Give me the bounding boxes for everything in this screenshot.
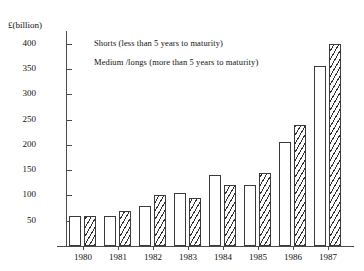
y-tick-label: 400 bbox=[10, 39, 36, 48]
bar-medium-longs bbox=[154, 195, 166, 246]
x-tick-label-year: 1984 bbox=[203, 252, 243, 262]
bar-medium-longs bbox=[259, 173, 271, 246]
bar-shorts bbox=[279, 142, 291, 246]
bar-group bbox=[68, 31, 100, 246]
x-tick-mark bbox=[258, 246, 259, 250]
y-axis-title: £(billion) bbox=[8, 20, 42, 30]
bar-medium-longs bbox=[329, 44, 341, 246]
x-tick-label-year: 1982 bbox=[133, 252, 173, 262]
bar-medium-longs bbox=[224, 185, 236, 246]
bar-medium-longs bbox=[84, 216, 96, 246]
bar-medium-longs bbox=[189, 198, 201, 246]
x-tick-mark bbox=[293, 246, 294, 250]
bar-shorts bbox=[139, 206, 151, 246]
x-tick-mark bbox=[188, 246, 189, 250]
bar-shorts bbox=[69, 216, 81, 246]
x-tick-label-year: 1981 bbox=[98, 252, 138, 262]
x-axis-line bbox=[57, 246, 354, 247]
x-tick-mark bbox=[328, 246, 329, 250]
y-tick-label: 150 bbox=[10, 165, 36, 174]
bar-medium-longs bbox=[294, 125, 306, 246]
x-tick-mark bbox=[118, 246, 119, 250]
bar-group bbox=[243, 31, 275, 246]
x-tick-label-year: 1983 bbox=[168, 252, 208, 262]
x-tick-mark bbox=[223, 246, 224, 250]
x-tick-mark bbox=[83, 246, 84, 250]
bar-shorts bbox=[209, 175, 221, 246]
y-tick-label: 50 bbox=[10, 216, 36, 225]
x-tick-mark bbox=[153, 246, 154, 250]
bar-shorts bbox=[174, 193, 186, 246]
bar-group bbox=[138, 31, 170, 246]
bar-shorts bbox=[104, 216, 116, 246]
y-tick-label: 100 bbox=[10, 190, 36, 199]
bar-group bbox=[103, 31, 135, 246]
x-tick-label-year: 1986 bbox=[273, 252, 313, 262]
bar-shorts bbox=[244, 185, 256, 246]
plot-area bbox=[67, 31, 354, 246]
bar-group bbox=[278, 31, 310, 246]
bar-group bbox=[313, 31, 345, 246]
y-tick-label: 200 bbox=[10, 140, 36, 149]
bar-medium-longs bbox=[119, 211, 131, 246]
bar-group bbox=[173, 31, 205, 246]
x-tick-label-year: 1985 bbox=[238, 252, 278, 262]
bar-chart: £(billion) 50100150200250300350400 Short… bbox=[0, 0, 364, 271]
bar-group bbox=[208, 31, 240, 246]
y-tick-label: 250 bbox=[10, 115, 36, 124]
bar-shorts bbox=[314, 66, 326, 246]
x-tick-label-year: 1980 bbox=[63, 252, 103, 262]
x-tick-label-year: 1987 bbox=[308, 252, 348, 262]
y-tick-label: 350 bbox=[10, 64, 36, 73]
y-tick-label: 300 bbox=[10, 89, 36, 98]
